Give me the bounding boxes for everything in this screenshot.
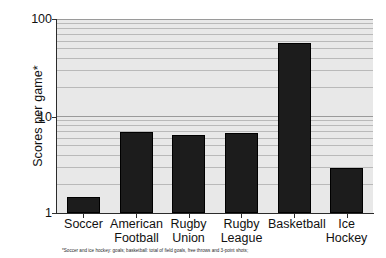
x-label-line: Football: [110, 232, 163, 246]
bar-american-football: [120, 132, 153, 213]
x-label-ice-hockey: IceHockey: [320, 218, 373, 245]
gridline: [57, 125, 373, 126]
chart-footnote: *Soccer and ice hockey: goals; basketbal…: [62, 248, 382, 254]
gridline: [57, 145, 373, 146]
x-label-line: American: [110, 218, 163, 232]
x-label-line: Basketball: [268, 218, 321, 232]
y-tick-label-1: 1: [22, 207, 52, 220]
x-label-line: Ice: [320, 218, 373, 232]
x-label-american-football: AmericanFootball: [110, 218, 163, 245]
y-tick-label-10: 10: [22, 111, 52, 124]
gridline: [57, 70, 373, 71]
gridline: [57, 184, 373, 185]
x-label-line: Soccer: [57, 218, 110, 232]
x-label-basketball: Basketball: [268, 218, 321, 232]
scores-per-game-bar-chart: Scores per game* 100 10 1 SoccerAmerican…: [0, 0, 386, 258]
gridline: [57, 28, 373, 29]
gridline: [57, 23, 373, 24]
x-label-line: League: [215, 232, 268, 246]
gridline: [57, 48, 373, 49]
gridline: [57, 167, 373, 168]
gridline: [57, 19, 373, 20]
x-axis-line: [56, 213, 374, 214]
gridline: [57, 41, 373, 42]
x-label-line: Rugby: [162, 218, 215, 232]
x-label-rugby-league: RugbyLeague: [215, 218, 268, 245]
x-label-line: Hockey: [320, 232, 373, 246]
gridline: [57, 138, 373, 139]
bar-basketball: [278, 43, 311, 213]
gridline: [57, 131, 373, 132]
y-tick-label-100: 100: [22, 13, 52, 26]
plot-area: [57, 19, 373, 213]
bar-rugby-union: [172, 135, 205, 213]
x-label-line: Rugby: [215, 218, 268, 232]
bar-rugby-league: [225, 133, 258, 213]
x-label-rugby-union: RugbyUnion: [162, 218, 215, 245]
gridline: [57, 116, 373, 117]
gridline: [57, 87, 373, 88]
bar-ice-hockey: [330, 168, 363, 213]
gridline: [57, 34, 373, 35]
gridline: [57, 120, 373, 121]
y-axis-line: [56, 19, 57, 214]
y-axis-tick-labels: 100 10 1: [19, 0, 52, 258]
bar-soccer: [67, 197, 100, 213]
gridline: [57, 58, 373, 59]
x-label-soccer: Soccer: [57, 218, 110, 232]
x-label-line: Union: [162, 232, 215, 246]
gridline: [57, 155, 373, 156]
